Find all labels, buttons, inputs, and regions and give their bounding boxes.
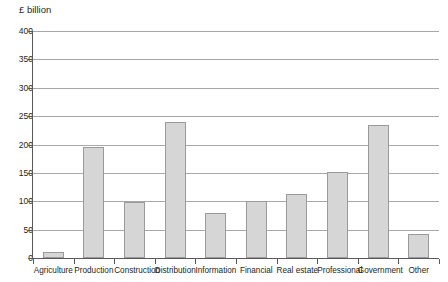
x-tick-mark (236, 259, 237, 264)
x-tick-mark (317, 259, 318, 264)
x-category-label: Information (195, 266, 236, 276)
x-tick-mark (33, 259, 34, 264)
bar-chart: £ billion 400350300250200150100500 Agric… (0, 0, 448, 282)
x-category-label: Production (74, 266, 115, 276)
x-category-label: Agriculture (33, 266, 74, 276)
bar (165, 122, 186, 258)
x-tick-mark (74, 259, 75, 264)
x-tick-mark (195, 259, 196, 264)
x-axis-labels: AgricultureProductionConstructionDistrib… (33, 259, 439, 282)
x-tick-mark (277, 259, 278, 264)
bar (43, 252, 64, 258)
bar (205, 213, 226, 258)
bar (368, 125, 389, 258)
x-tick-mark (358, 259, 359, 264)
x-category-label: Construction (114, 266, 155, 276)
bar (246, 201, 267, 258)
x-category-label: Financial (236, 266, 277, 276)
bar (83, 147, 104, 258)
x-tick-mark (439, 259, 440, 264)
x-category-label: Other (398, 266, 439, 276)
bar (286, 194, 307, 258)
x-category-label: Government (358, 266, 399, 276)
x-tick-mark (114, 259, 115, 264)
x-category-label: Real estate (277, 266, 318, 276)
x-category-label: Professional (317, 266, 358, 276)
bar (327, 172, 348, 258)
x-tick-mark (398, 259, 399, 264)
bar (408, 234, 429, 258)
x-tick-mark (155, 259, 156, 264)
bar (124, 202, 145, 258)
bars-layer (33, 31, 439, 259)
x-category-label: Distribution (155, 266, 196, 276)
y-axis-ticks: 400350300250200150100500 (0, 0, 33, 282)
